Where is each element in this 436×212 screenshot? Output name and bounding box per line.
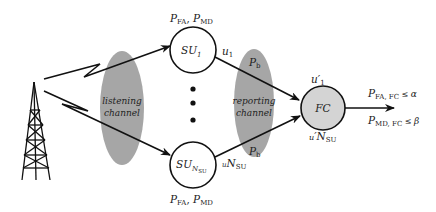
su-first-output-label: u1 <box>222 45 233 59</box>
cooperative-sensing-diagram: SU1 PFA, PMD SUNSU PFA, PMD u1 uNSU Pb P… <box>0 0 436 212</box>
reporting-channel-label-2: channel <box>236 108 272 118</box>
su-last-node: SUNSU <box>170 142 216 188</box>
transmitter-tower-icon <box>22 82 50 180</box>
ellipsis-dot <box>190 86 195 91</box>
fusion-center-node: FC <box>301 86 345 130</box>
fc-input-last-label: u′NSU <box>309 130 337 144</box>
su-first-node: SU1 <box>170 27 216 73</box>
su-first-probabilities: PFA, PMD <box>169 12 213 26</box>
fc-false-alarm-constraint: PFA, FC ≤ α <box>367 87 417 101</box>
ellipsis-dot <box>190 100 195 105</box>
svg-text:FC: FC <box>314 102 330 114</box>
su-last-probabilities: PFA, PMD <box>169 193 213 207</box>
listening-channel-label: listening <box>102 96 142 106</box>
fc-missed-detection-constraint: PMD, FC ≤ β <box>367 114 419 128</box>
su-last-output-label: uNSU <box>222 157 246 171</box>
listening-channel-label-2: channel <box>104 108 140 118</box>
fc-input-first-label: u′1 <box>311 73 325 87</box>
ellipsis-dot <box>190 117 195 122</box>
reporting-channel-label: reporting <box>232 96 275 106</box>
